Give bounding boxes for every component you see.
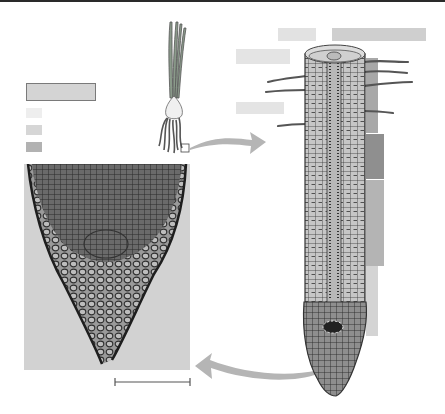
- zone-bar-1: [366, 58, 378, 133]
- legend-title-box: [26, 83, 96, 101]
- zone-bar-3: [366, 180, 384, 266]
- zone-bar-4: [366, 266, 378, 336]
- zoom-region-box: [181, 144, 189, 152]
- zone-bar-2: [366, 134, 384, 179]
- label-placeholder-2: [332, 28, 426, 41]
- top-border: [0, 0, 445, 2]
- label-placeholder-1: [278, 28, 316, 41]
- label-placeholder-4: [236, 102, 284, 114]
- micrograph-image: [24, 164, 190, 370]
- arrow-right-icon: [190, 132, 266, 154]
- label-placeholder-3: [236, 49, 290, 64]
- legend-swatch-2: [26, 125, 42, 135]
- legend-swatch-3: [26, 142, 42, 152]
- root-tip-micrograph: [24, 164, 190, 370]
- arrow-left-icon: [195, 353, 318, 380]
- legend-swatch-1: [26, 108, 42, 118]
